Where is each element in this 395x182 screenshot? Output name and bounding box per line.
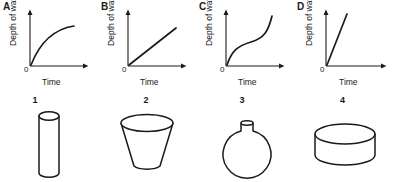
vessel-number-4: 4 — [294, 96, 395, 105]
vessel-shape-2 — [98, 107, 196, 182]
graph-d-origin-label: 0 — [320, 66, 324, 74]
vessel-panel-4: 4 — [294, 95, 395, 182]
vessel-shape-3 — [196, 107, 294, 182]
vessel-shape-4 — [294, 107, 395, 182]
vessel-number-3: 3 — [196, 96, 294, 105]
graph-b-origin-label: 0 — [122, 66, 126, 74]
graph-b-x-axis-label: Time — [140, 78, 159, 87]
vessel-number-2: 2 — [98, 96, 196, 105]
graph-panel-d: D Depth of water 0 Time — [294, 0, 395, 95]
figure-canvas: A Depth of water 0 Time B Depth of water — [0, 0, 395, 182]
graph-c-origin-label: 0 — [220, 66, 224, 74]
vessel-panel-2: 2 — [98, 95, 196, 182]
graph-panel-b: B Depth of water 0 Time — [98, 0, 196, 95]
graph-d-x-axis-label: Time — [339, 78, 358, 87]
graph-c-x-axis-label: Time — [238, 78, 257, 87]
graph-panel-a: A Depth of water 0 Time — [0, 0, 98, 95]
vessel-shape-1 — [0, 107, 98, 182]
graph-a-origin-label: 0 — [24, 66, 28, 74]
vessel-panel-3: 3 — [196, 95, 294, 182]
vessel-panel-1: 1 — [0, 95, 98, 182]
graph-a-x-axis-label: Time — [42, 78, 61, 87]
graph-panel-c: C Depth of water 0 Time — [196, 0, 294, 95]
vessel-number-1: 1 — [0, 96, 98, 105]
